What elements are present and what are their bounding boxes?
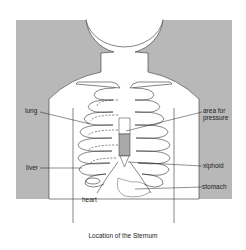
background-panel-left (16, 99, 49, 199)
label-heart: heart (82, 196, 97, 203)
label-area-for-pressure-2: pressure (203, 114, 228, 121)
label-stomach: stomach (202, 183, 227, 190)
label-xiphoid: xiphoid (203, 162, 224, 169)
figure-caption: Location of the Sternum (0, 232, 246, 239)
sternum-upper (119, 118, 130, 134)
label-lung: lung (25, 107, 37, 114)
label-area-for-pressure-1: area for (203, 107, 225, 114)
pressure-area (119, 134, 130, 156)
sternum-diagram (0, 0, 246, 250)
label-liver: liver (26, 164, 38, 171)
